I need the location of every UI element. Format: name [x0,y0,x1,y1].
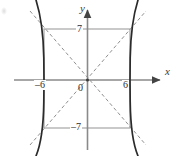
origin-label: 0 [78,83,83,93]
y-tick-label-negative-7: –7 [70,122,82,132]
x-tick-label-negative-6: –6 [34,80,46,90]
y-axis-label: y [80,3,85,14]
origin-point [86,79,89,82]
hyperbola-left-branch [36,0,44,156]
hyperbola-figure: y x 7 –7 –6 6 0 [0,0,176,156]
hyperbola-right-branch [130,0,138,156]
y-tick-label-positive-7: 7 [76,24,83,34]
graph-canvas [0,0,176,156]
x-axis-label: x [165,66,170,77]
x-tick-label-positive-6: 6 [122,80,129,90]
